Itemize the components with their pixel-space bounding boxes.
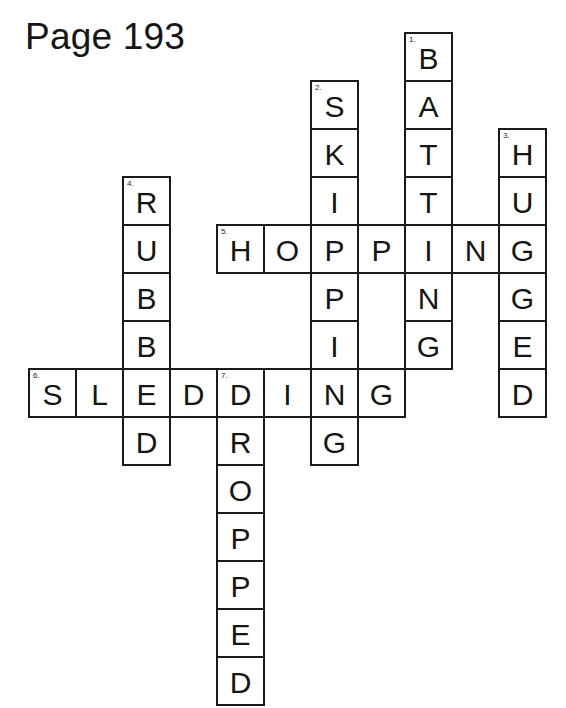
crossword-cell: E	[122, 368, 171, 418]
crossword-cell: U	[122, 224, 171, 274]
crossword-cell: P	[216, 560, 265, 610]
cell-letter: U	[512, 188, 534, 218]
cell-letter: E	[512, 332, 532, 362]
cell-letter: K	[324, 140, 344, 170]
cell-letter: I	[330, 332, 338, 362]
crossword-cell: G	[357, 368, 406, 418]
crossword-cell: R	[216, 416, 265, 466]
clue-number: 1.	[409, 35, 416, 44]
cell-letter: R	[136, 188, 158, 218]
crossword-cell: B	[122, 272, 171, 322]
crossword-cell: 2.S	[310, 80, 359, 130]
clue-number: 4.	[127, 179, 134, 188]
crossword-cell: 7.D	[216, 368, 265, 418]
crossword-cell: N	[451, 224, 500, 274]
cell-letter: S	[324, 92, 344, 122]
cell-letter: B	[418, 44, 438, 74]
cell-letter: B	[136, 284, 156, 314]
crossword-cell: P	[357, 224, 406, 274]
cell-letter: P	[324, 236, 344, 266]
cell-letter: G	[417, 332, 440, 362]
cell-letter: G	[511, 284, 534, 314]
cell-letter: G	[370, 380, 393, 410]
cell-letter: O	[276, 236, 299, 266]
cell-letter: D	[512, 380, 534, 410]
cell-letter: L	[91, 380, 108, 410]
crossword-cell: I	[404, 224, 453, 274]
crossword-cell: G	[498, 224, 547, 274]
cell-letter: G	[323, 428, 346, 458]
cell-letter: N	[465, 236, 487, 266]
crossword-cell: I	[263, 368, 312, 418]
crossword-cell: K	[310, 128, 359, 178]
clue-number: 2.	[315, 83, 322, 92]
crossword-cell: D	[169, 368, 218, 418]
cell-letter: T	[419, 188, 437, 218]
crossword-cell: T	[404, 128, 453, 178]
crossword-cell: A	[404, 80, 453, 130]
cell-letter: N	[324, 380, 346, 410]
crossword-cell: 1.B	[404, 32, 453, 82]
crossword-cell: U	[498, 176, 547, 226]
crossword-cell: G	[404, 320, 453, 370]
cell-letter: U	[136, 236, 158, 266]
cell-letter: O	[229, 476, 252, 506]
cell-letter: R	[230, 428, 252, 458]
cell-letter: P	[371, 236, 391, 266]
cell-letter: E	[136, 380, 156, 410]
cell-letter: D	[136, 428, 158, 458]
crossword-cell: E	[216, 608, 265, 658]
cell-letter: N	[418, 284, 440, 314]
cell-letter: D	[230, 668, 252, 698]
crossword-cell: D	[498, 368, 547, 418]
crossword-cell: D	[216, 656, 265, 706]
crossword-cell: 5.H	[216, 224, 265, 274]
crossword-cell: G	[498, 272, 547, 322]
cell-letter: D	[230, 380, 252, 410]
crossword-cell: G	[310, 416, 359, 466]
cell-letter: T	[419, 140, 437, 170]
cell-letter: B	[136, 332, 156, 362]
cell-letter: H	[230, 236, 252, 266]
crossword-cell: P	[310, 272, 359, 322]
crossword-cell: P	[216, 512, 265, 562]
cell-letter: E	[230, 620, 250, 650]
crossword-cell: E	[498, 320, 547, 370]
crossword-cell: I	[310, 176, 359, 226]
clue-number: 6.	[33, 371, 40, 380]
crossword-cell: N	[404, 272, 453, 322]
cell-letter: S	[42, 380, 62, 410]
crossword-grid: 1.BATTING2.SKIPPING3.HUGGED4.RUBBED5.HOP…	[0, 0, 566, 708]
cell-letter: I	[283, 380, 291, 410]
cell-letter: D	[183, 380, 205, 410]
crossword-cell: O	[263, 224, 312, 274]
cell-letter: I	[330, 188, 338, 218]
cell-letter: P	[230, 524, 250, 554]
crossword-cell: T	[404, 176, 453, 226]
crossword-cell: L	[75, 368, 124, 418]
crossword-cell: O	[216, 464, 265, 514]
crossword-cell: 6.S	[28, 368, 77, 418]
crossword-cell: N	[310, 368, 359, 418]
cell-letter: G	[511, 236, 534, 266]
crossword-cell: 4.R	[122, 176, 171, 226]
crossword-cell: B	[122, 320, 171, 370]
cell-letter: P	[324, 284, 344, 314]
cell-letter: A	[418, 92, 438, 122]
crossword-cell: I	[310, 320, 359, 370]
clue-number: 5.	[221, 227, 228, 236]
crossword-cell: D	[122, 416, 171, 466]
cell-letter: H	[512, 140, 534, 170]
clue-number: 3.	[503, 131, 510, 140]
crossword-cell: 3.H	[498, 128, 547, 178]
crossword-cell: P	[310, 224, 359, 274]
cell-letter: I	[424, 236, 432, 266]
cell-letter: P	[230, 572, 250, 602]
clue-number: 7.	[221, 371, 228, 380]
